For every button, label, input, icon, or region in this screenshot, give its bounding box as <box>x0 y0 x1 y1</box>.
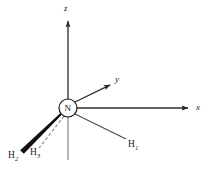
hydrogen-1-index: 1 <box>135 144 138 151</box>
y-axis-label: y <box>115 75 119 84</box>
hydrogen-1-symbol: H <box>128 139 135 149</box>
molecule-figure: z y x N H1 H2 H3 <box>0 0 208 169</box>
molecule-diagram-svg <box>0 0 208 169</box>
x-axis-label: x <box>196 103 200 112</box>
hydrogen-1-label: H1 <box>128 140 138 151</box>
hydrogen-2-label: H2 <box>8 151 18 162</box>
bond-h2-wedge <box>20 113 62 154</box>
hydrogen-2-index: 2 <box>15 155 18 162</box>
bond-h1-line <box>75 114 126 139</box>
nitrogen-atom-label: N <box>65 104 72 113</box>
hydrogen-3-index: 3 <box>37 152 40 159</box>
hydrogen-3-label: H3 <box>30 148 40 159</box>
hydrogen-2-symbol: H <box>8 150 15 160</box>
hydrogen-3-symbol: H <box>30 147 37 157</box>
y-axis-line <box>75 85 110 102</box>
z-axis-label: z <box>64 4 68 13</box>
